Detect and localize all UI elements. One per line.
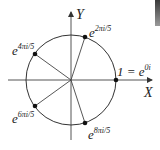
label-point-288: e8πi/5 — [88, 126, 110, 142]
label-exponent: 8πi/5 — [94, 126, 110, 135]
label-point-144: e4πi/5 — [12, 42, 34, 58]
x-axis-label: X — [144, 86, 153, 100]
radius-72 — [71, 37, 85, 80]
label-base: 1 = e — [117, 64, 145, 79]
label-exponent: 2πi/5 — [95, 24, 111, 33]
point-288 — [83, 121, 88, 126]
point-216 — [33, 104, 38, 109]
radius-288 — [71, 80, 85, 123]
radius-216 — [35, 80, 71, 106]
label-exponent: 4πi/5 — [18, 42, 34, 51]
label-exponent: 0i — [145, 63, 151, 72]
y-axis-label: Y — [76, 8, 84, 22]
label-point-0: 1 = e0i — [117, 63, 151, 79]
edge-strip — [155, 0, 160, 26]
label-point-216: e6πi/5 — [12, 110, 34, 126]
label-exponent: 6πi/5 — [18, 110, 34, 119]
radius-144 — [35, 54, 71, 80]
label-point-72: e2πi/5 — [89, 24, 111, 40]
roots-of-unity-diagram: Y X e2πi/5 e4πi/5 1 = e0i e6πi/5 e8πi/5 — [0, 0, 160, 150]
point-72 — [83, 35, 88, 40]
